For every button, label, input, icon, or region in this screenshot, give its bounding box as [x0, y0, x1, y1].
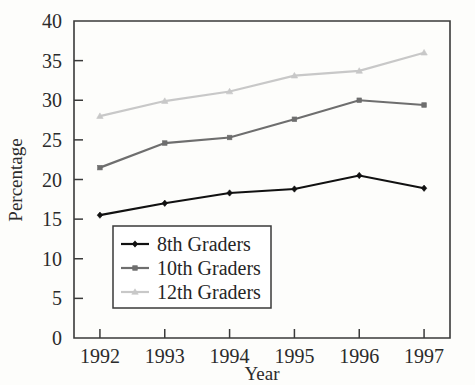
data-point-marker — [357, 172, 362, 178]
series-line — [100, 176, 424, 216]
y-tick-label: 35 — [42, 50, 62, 72]
x-tick-label: 1996 — [339, 345, 379, 367]
y-axis-tick-labels: 0510152025303540 — [42, 10, 62, 349]
data-series-layer — [97, 49, 428, 218]
y-tick-label: 25 — [42, 129, 62, 151]
x-axis-ticks — [100, 329, 424, 338]
data-point-marker — [98, 165, 103, 170]
x-tick-label: 1997 — [404, 345, 444, 367]
y-tick-label: 15 — [42, 208, 62, 230]
legend-marker-icon — [133, 266, 138, 271]
data-point-marker — [422, 103, 427, 108]
series-line — [100, 53, 424, 116]
data-point-marker — [357, 98, 362, 103]
legend-item-label: 8th Graders — [157, 233, 251, 255]
series-8th-graders — [97, 172, 427, 218]
chart-legend: 8th Graders10th Graders12th Graders — [113, 226, 271, 308]
series-10th-graders — [98, 98, 427, 170]
data-point-marker — [227, 135, 232, 140]
data-point-marker — [227, 190, 232, 196]
data-point-marker — [162, 200, 167, 206]
x-tick-label: 1993 — [145, 345, 185, 367]
chart-canvas: 0510152025303540 19921993199419951996199… — [0, 0, 475, 385]
y-tick-label: 20 — [42, 169, 62, 191]
data-point-marker — [97, 212, 102, 218]
y-tick-label: 0 — [52, 327, 62, 349]
y-tick-label: 40 — [42, 10, 62, 32]
data-point-marker — [292, 186, 297, 192]
line-chart-figure: 0510152025303540 19921993199419951996199… — [0, 0, 475, 385]
y-axis-ticks — [74, 61, 83, 299]
data-point-marker — [162, 141, 167, 146]
x-tick-label: 1992 — [80, 345, 120, 367]
y-axis-title: Percentage — [5, 138, 26, 221]
data-point-marker — [421, 185, 426, 191]
x-tick-label: 1995 — [274, 345, 314, 367]
y-tick-label: 10 — [42, 248, 62, 270]
legend-item-label: 10th Graders — [157, 257, 261, 279]
y-tick-label: 30 — [42, 89, 62, 111]
y-tick-label: 5 — [52, 287, 62, 309]
series-12th-graders — [97, 49, 428, 118]
legend-item-label: 12th Graders — [157, 281, 261, 303]
data-point-marker — [292, 117, 297, 122]
series-line — [100, 100, 424, 167]
x-axis-title: Year — [244, 363, 280, 384]
